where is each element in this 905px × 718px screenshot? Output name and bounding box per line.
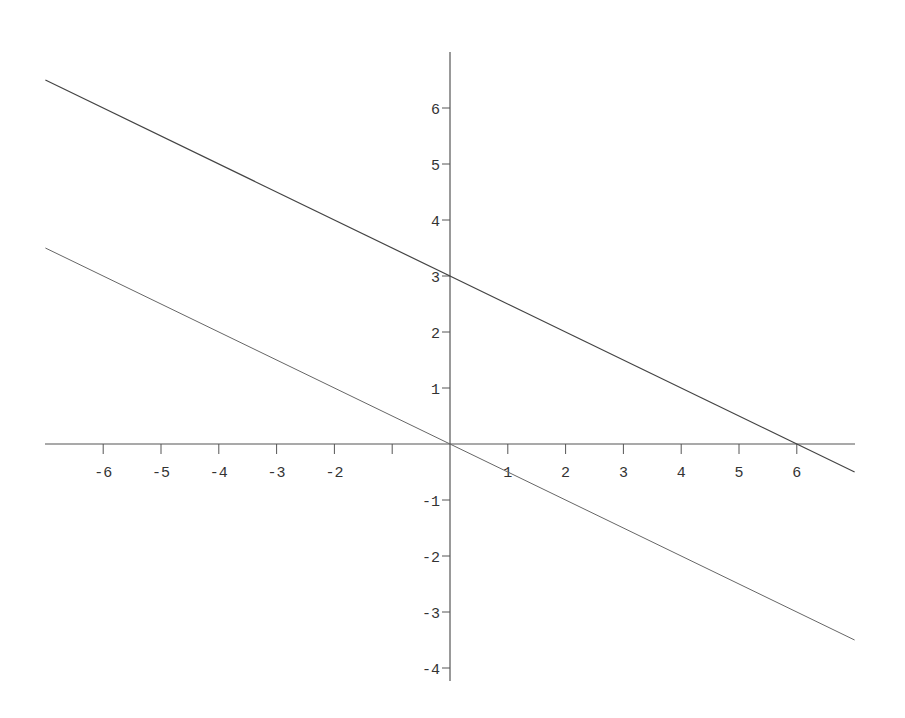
- x-tick-label: 5: [734, 465, 743, 482]
- y-tick-label: 6: [431, 102, 440, 119]
- y-tick-label: 4: [431, 214, 440, 231]
- x-tick-label: -2: [325, 465, 343, 482]
- x-tick-label: -6: [94, 465, 112, 482]
- x-tick-label: 2: [561, 465, 570, 482]
- tick-labels: -6-5-4-3-2123456-4-3-2-1123456: [94, 102, 801, 679]
- x-tick-label: 4: [677, 465, 686, 482]
- y-tick-label: 5: [431, 158, 440, 175]
- y-tick-label: 1: [431, 382, 440, 399]
- x-tick-label: -5: [152, 465, 170, 482]
- y-tick-label: -2: [422, 550, 440, 567]
- y-tick-label: -3: [422, 606, 440, 623]
- y-tick-label: 3: [431, 270, 440, 287]
- x-tick-label: -3: [268, 465, 286, 482]
- y-tick-label: -4: [422, 662, 440, 679]
- x-tick-label: 6: [792, 465, 801, 482]
- x-tick-label: 3: [619, 465, 628, 482]
- y-tick-label: -1: [422, 494, 440, 511]
- axes: [45, 52, 855, 681]
- y-tick-label: 2: [431, 326, 440, 343]
- line-chart: -6-5-4-3-2123456-4-3-2-1123456: [0, 0, 905, 718]
- x-tick-label: -4: [210, 465, 228, 482]
